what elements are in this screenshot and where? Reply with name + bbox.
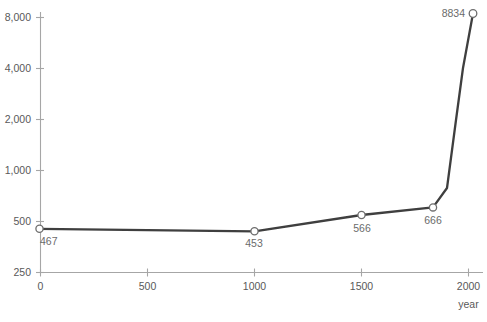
x-axis: 0 500 1000 1500 2000 year — [38, 269, 483, 311]
y-tick-label-8000: 8,000 — [5, 11, 31, 23]
chart-canvas: 8,000 4,000 2,000 1,000 500 250 0 500 10… — [0, 0, 487, 322]
y-axis: 8,000 4,000 2,000 1,000 500 250 — [5, 11, 44, 278]
data-point-marker-1 — [251, 228, 258, 235]
data-point-label-4: 8834 — [442, 7, 466, 19]
x-tick-label-0: 0 — [38, 280, 44, 292]
population-line-chart: 8,000 4,000 2,000 1,000 500 250 0 500 10… — [0, 0, 487, 322]
y-tick-label-1000: 1,000 — [5, 164, 31, 176]
data-point-marker-2 — [358, 211, 365, 218]
data-point-labels: 467 453 566 666 8834 — [40, 7, 465, 249]
data-point-label-3: 666 — [424, 214, 442, 226]
x-tick-label-1000: 1000 — [243, 280, 267, 292]
x-tick-label-2000: 2000 — [457, 280, 481, 292]
data-point-label-1: 453 — [245, 237, 263, 249]
series-line-population — [40, 14, 474, 232]
data-point-label-2: 566 — [353, 222, 371, 234]
y-tick-label-4000: 4,000 — [5, 62, 31, 74]
y-tick-label-2000: 2,000 — [5, 113, 31, 125]
x-tick-label-500: 500 — [139, 280, 157, 292]
data-point-marker-3 — [429, 204, 436, 211]
y-tick-label-250: 250 — [13, 266, 31, 278]
x-axis-title: year — [458, 298, 479, 310]
data-point-marker-4 — [469, 10, 477, 18]
data-point-marker-0 — [36, 225, 43, 232]
y-tick-label-500: 500 — [13, 215, 31, 227]
data-point-label-0: 467 — [40, 235, 58, 247]
population-series — [36, 10, 477, 235]
x-tick-label-1500: 1500 — [350, 280, 374, 292]
